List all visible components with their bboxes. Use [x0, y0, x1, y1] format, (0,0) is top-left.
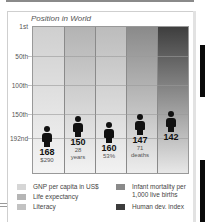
value-label-gnp: 168 $290 [39, 148, 54, 164]
legend-swatch [116, 184, 125, 190]
legend-swatch [17, 194, 26, 200]
person-icon [40, 126, 54, 147]
legend-item-life-expectancy: Life expectancy [17, 193, 78, 201]
gridline-50th [28, 56, 189, 57]
legend-swatch [17, 204, 26, 210]
legend-swatch [17, 184, 26, 190]
y-tick-150th: 150th [12, 111, 28, 118]
legend-item-human-dev-index: Human dev. index [116, 203, 184, 211]
value-label-literacy: 160 53% [101, 144, 116, 160]
y-tick-100th: 100th [12, 82, 28, 89]
legend-item-gnp: GNP per capita in US$ [17, 183, 99, 191]
edge-bar-top [200, 45, 205, 97]
legend-item-infant-mortality: Infant mortality per 1,000 live births [116, 183, 186, 199]
top-divider [6, 0, 194, 2]
value-label-human-dev-index: 142 [163, 133, 178, 142]
column-human-dev-index [157, 27, 189, 173]
panel-shadow [193, 11, 196, 222]
value-label-infant-mortality: 147 71 deaths [131, 136, 149, 159]
legend-item-literacy: Literacy [17, 203, 56, 211]
value-label-life-expectancy: 150 28 years [70, 138, 85, 161]
edge-bar-bottom [200, 160, 205, 222]
person-icon [133, 114, 147, 135]
person-icon [102, 122, 116, 143]
y-tick-50th: 50th [15, 53, 28, 60]
person-icon [164, 111, 178, 132]
gridline-100th [28, 85, 189, 86]
y-tick-1st: 1st [19, 23, 28, 30]
chart-title: Position in World [31, 14, 91, 23]
legend-swatch [116, 204, 125, 210]
y-tick-192nd: 192nd [10, 135, 28, 142]
person-icon [71, 116, 85, 137]
